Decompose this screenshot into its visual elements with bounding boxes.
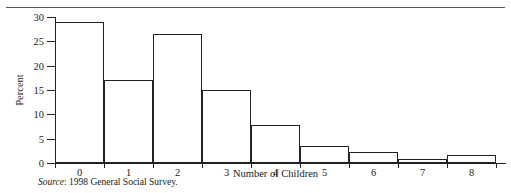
y-tick-label: 20	[34, 60, 45, 71]
bar-8	[447, 155, 496, 163]
y-tick-label: 0	[39, 158, 44, 169]
bar-1	[104, 80, 153, 163]
x-tick-mark	[496, 163, 497, 168]
y-tick-label: 5	[39, 133, 44, 144]
y-tick-label: 10	[34, 109, 45, 120]
bar-3	[202, 90, 251, 163]
truncated-caption-text	[0, 0, 511, 6]
source-note: Source: 1998 General Social Survey.	[38, 177, 178, 187]
y-axis-title: Percent	[14, 74, 25, 106]
source-value: : 1998 General Social Survey.	[64, 177, 178, 187]
y-tick-mark	[47, 139, 55, 140]
y-tick-mark	[47, 66, 55, 67]
y-tick-mark	[47, 90, 55, 91]
bar-2	[153, 34, 202, 163]
bar-5	[300, 146, 349, 163]
y-tick-mark	[47, 163, 55, 164]
source-label: Source	[38, 177, 64, 187]
y-tick-mark	[47, 17, 55, 18]
y-axis-title-holder: Percent	[6, 17, 20, 163]
plot-area: 051015202530	[55, 17, 496, 163]
y-tick-mark	[47, 41, 55, 42]
bar-4	[251, 125, 300, 163]
y-tick-label: 25	[34, 36, 45, 47]
bar-0	[55, 22, 104, 163]
x-axis-line	[55, 163, 506, 164]
y-tick-mark	[47, 114, 55, 115]
bar-7	[398, 159, 447, 163]
histogram-figure: Percent 051015202530 012345678 Number of…	[0, 0, 511, 193]
y-tick-label: 30	[34, 12, 45, 23]
caption-divider-rule	[6, 7, 505, 8]
bar-6	[349, 152, 398, 163]
y-tick-label: 15	[34, 85, 45, 96]
